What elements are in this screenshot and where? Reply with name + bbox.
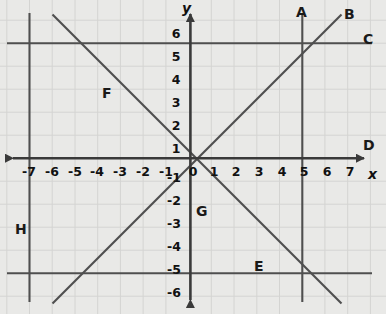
line-label-A: A bbox=[296, 5, 307, 19]
y-tick-5: 5 bbox=[172, 51, 181, 64]
x-tick-0: 0 bbox=[189, 166, 198, 179]
line-label-B: B bbox=[344, 7, 355, 21]
y-tick-neg1: -1 bbox=[167, 172, 181, 185]
line-label-E: E bbox=[254, 259, 264, 273]
y-axis-name: y bbox=[182, 1, 191, 15]
y-tick-neg3: -3 bbox=[167, 218, 181, 231]
y-tick-6: 6 bbox=[172, 28, 181, 41]
y-tick-3: 3 bbox=[172, 97, 181, 110]
y-tick-1: 1 bbox=[172, 143, 181, 156]
coordinate-plane-figure: y x -7-6-5-4-3-2-101234567 654321-1-2-3-… bbox=[0, 0, 386, 314]
y-tick-neg4: -4 bbox=[167, 241, 181, 254]
x-tick-neg7: -7 bbox=[22, 166, 36, 179]
x-tick-neg3: -3 bbox=[113, 166, 127, 179]
x-tick-5: 5 bbox=[300, 166, 309, 179]
x-axis-name: x bbox=[368, 167, 377, 181]
y-tick-2: 2 bbox=[172, 120, 181, 133]
x-tick-1: 1 bbox=[210, 166, 219, 179]
y-tick-neg6: -6 bbox=[167, 287, 181, 300]
x-tick-2: 2 bbox=[232, 166, 241, 179]
line-label-C: C bbox=[363, 32, 373, 46]
x-tick-6: 6 bbox=[323, 166, 332, 179]
x-tick-neg6: -6 bbox=[45, 166, 59, 179]
x-tick-4: 4 bbox=[278, 166, 287, 179]
x-tick-3: 3 bbox=[255, 166, 264, 179]
x-tick-7: 7 bbox=[346, 166, 355, 179]
y-tick-neg5: -5 bbox=[167, 264, 181, 277]
x-tick-neg5: -5 bbox=[68, 166, 82, 179]
line-label-D: D bbox=[363, 138, 375, 152]
line-label-H: H bbox=[15, 222, 27, 236]
y-tick-neg2: -2 bbox=[167, 195, 181, 208]
x-tick-neg2: -2 bbox=[136, 166, 150, 179]
y-tick-4: 4 bbox=[172, 74, 181, 87]
line-label-F: F bbox=[102, 86, 112, 100]
graph-canvas bbox=[0, 0, 386, 314]
line-label-G: G bbox=[196, 204, 208, 218]
x-tick-neg4: -4 bbox=[90, 166, 104, 179]
